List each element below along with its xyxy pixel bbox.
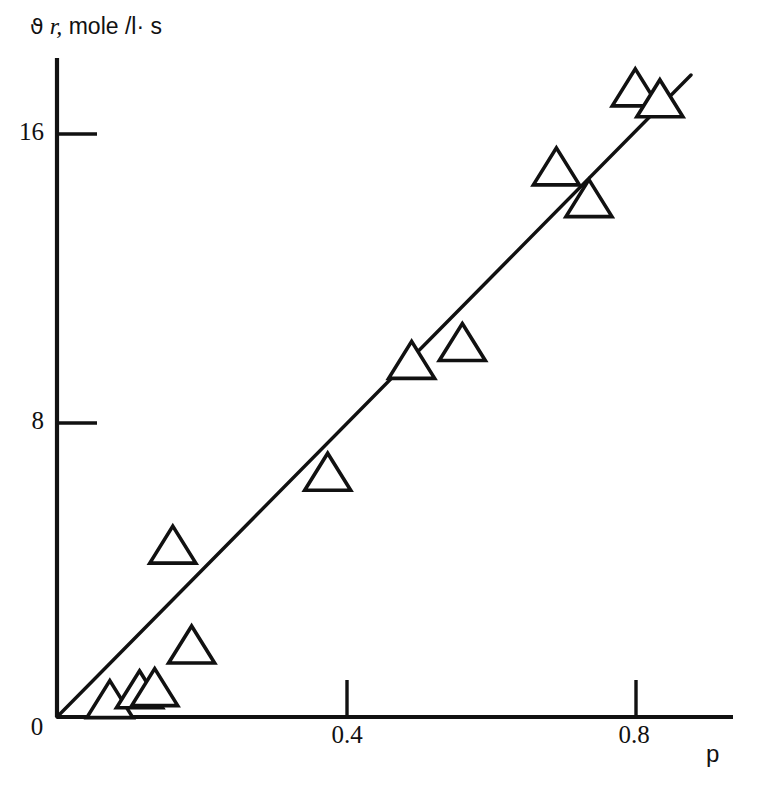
plot-canvas: [0, 0, 757, 790]
y-tick-label-16: 16: [10, 119, 44, 144]
x-axis-label: p: [706, 742, 719, 766]
origin-label: 0: [20, 714, 54, 739]
chart-figure: ϑr, mole /l· s p 16 8 0 0.4 0.8: [0, 0, 757, 790]
regression-line: [57, 75, 691, 717]
data-points-group: [87, 69, 683, 718]
data-point-marker: [169, 626, 215, 663]
fit-line-group: [57, 75, 691, 717]
data-point-marker: [389, 341, 435, 378]
data-point-marker: [150, 526, 196, 563]
data-point-marker: [439, 324, 485, 361]
y-axis-units: mole /l· s: [69, 13, 162, 39]
y-tick-label-8: 8: [10, 408, 44, 433]
x-tick-label-0-8: 0.8: [599, 722, 669, 747]
y-axis-label: ϑr, mole /l· s: [30, 14, 162, 38]
data-point-marker: [533, 148, 579, 185]
theta-symbol: ϑ: [30, 14, 50, 39]
rate-symbol: r,: [50, 13, 63, 39]
x-tick-label-0-4: 0.4: [312, 722, 382, 747]
axes-group: [57, 58, 733, 717]
